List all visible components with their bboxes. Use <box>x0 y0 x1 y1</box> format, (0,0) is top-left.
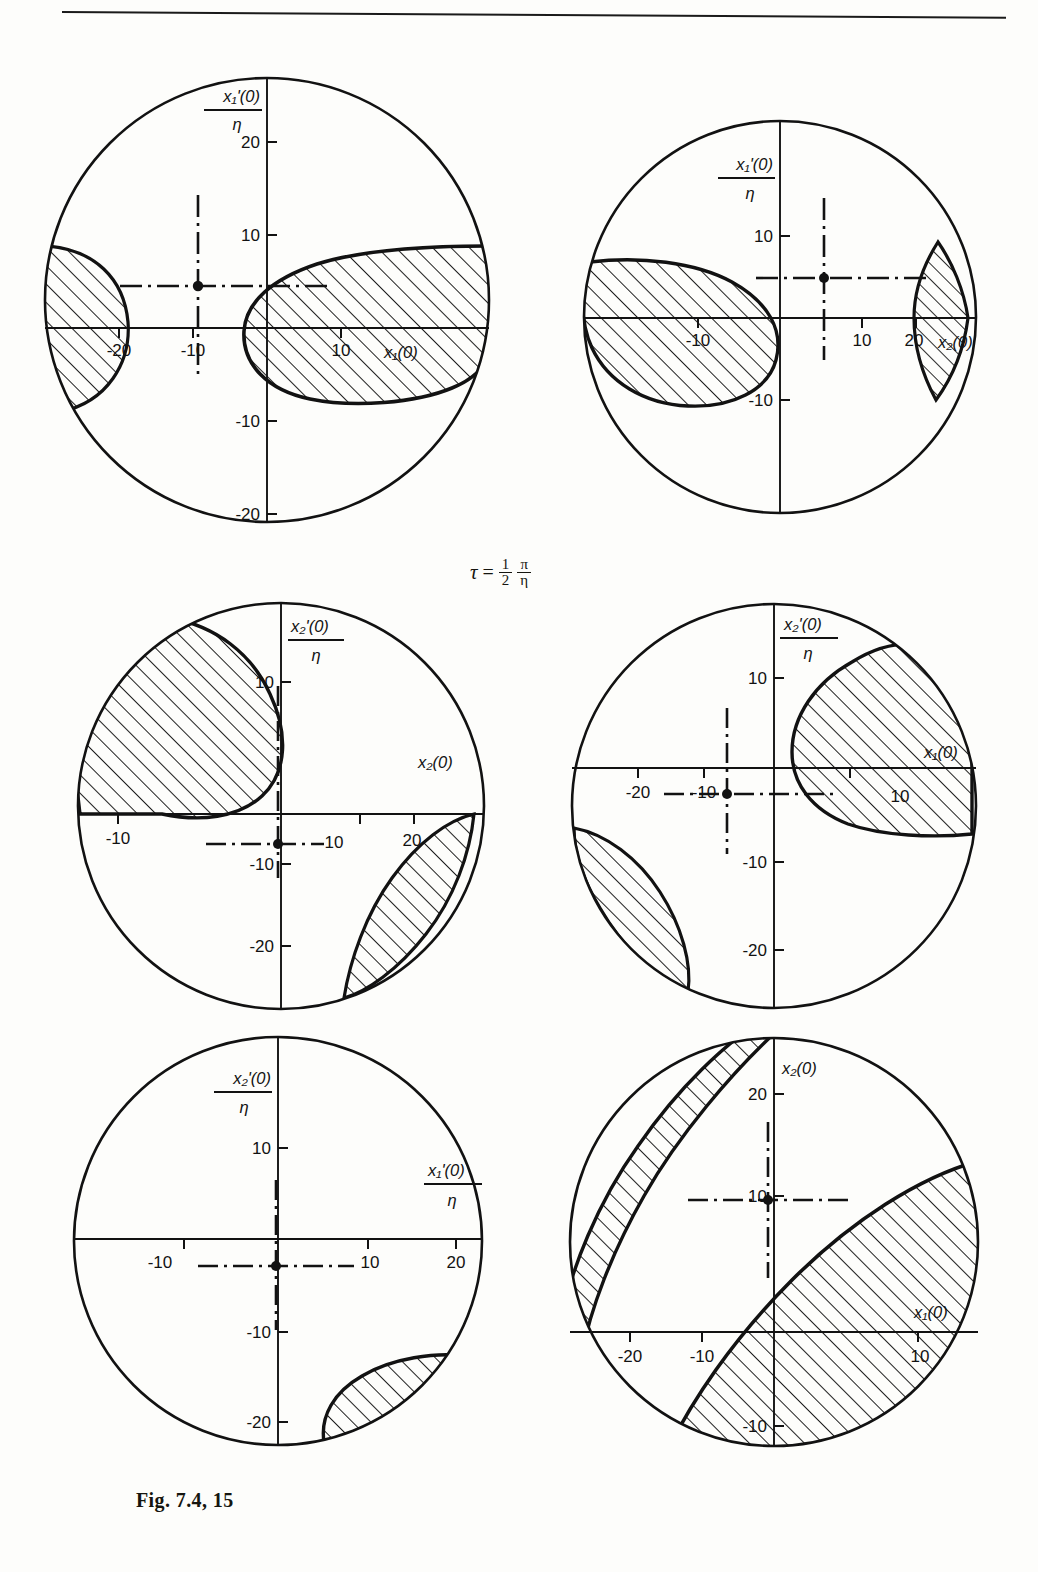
reference-crosshair-bl <box>198 1180 354 1330</box>
region-left-lune-tl <box>40 246 129 412</box>
xtick-n10-mr: -10 <box>692 783 717 802</box>
tau-condition: τ = 1 2 π η <box>470 557 531 589</box>
center-dot-mr <box>722 789 732 799</box>
y-axis-label-num-tl: x₁'(0) <box>222 87 260 105</box>
y-axis-label-den-tl: η <box>232 115 241 133</box>
region-upper-right-lobe-mr <box>792 644 972 836</box>
y-axis-label-num-bl: x₂'(0) <box>232 1069 271 1087</box>
tau-coefficient: 1 2 <box>499 557 513 589</box>
xtick-n20-br: -20 <box>618 1347 643 1366</box>
y-ticks-mr <box>774 678 784 950</box>
panel-bottom-right: 20 10 -10 -20 -10 10 x₂(0) x₁(0) <box>552 1026 1002 1466</box>
panel-bottom-left: 10 -10 -20 -10 10 20 x₂'(0) η x₁'(0) η <box>66 1026 516 1466</box>
region-lower-right-lobe-bl <box>323 1355 477 1466</box>
x-axis-label-den-bl: η <box>447 1191 456 1209</box>
ytick-n10-br: -10 <box>742 1417 767 1436</box>
center-dot-bl <box>271 1261 281 1271</box>
xtick-10-br: 10 <box>911 1347 930 1366</box>
x-axis-label-tl: x₁(0) <box>383 343 418 361</box>
x-ticks-bl <box>184 1239 456 1249</box>
tau-frac-num: π <box>517 557 531 572</box>
xtick-n10-bl: -10 <box>148 1253 173 1272</box>
region-right-wedge-tr <box>914 242 968 400</box>
center-dot-tl <box>193 281 203 291</box>
panel-mid-right: 10 -10 -20 -20 -10 10 x₂'(0) η x₁(0) <box>552 596 1002 1016</box>
x-axis-label-ml: x₂(0) <box>417 753 453 771</box>
xtick-10-ml: 10 <box>325 833 344 852</box>
y-axis-label-den-tr: η <box>745 184 754 202</box>
xtick-20-bl: 20 <box>447 1253 466 1272</box>
tau-equals: = <box>483 561 494 584</box>
xtick-20-tr: 20 <box>905 331 924 350</box>
ytick-n10-bl: -10 <box>246 1323 271 1342</box>
y-axis-label-mr: x₂'(0) η <box>780 615 838 662</box>
y-ticks-bl <box>278 1148 288 1422</box>
xtick-10-tl: 10 <box>332 341 351 360</box>
page-header-rule <box>62 11 1006 19</box>
ytick-20-br: 20 <box>748 1085 767 1104</box>
ytick-n10-ml: -10 <box>249 855 274 874</box>
region-upper-left-band-br <box>560 1018 780 1354</box>
center-dot-ml <box>273 839 283 849</box>
y-axis-label-ml: x₂'(0) η <box>288 617 344 664</box>
reference-crosshair-tr <box>756 198 928 360</box>
ytick-n20-bl: -20 <box>246 1413 271 1432</box>
x-axis-label-mr: x₁(0) <box>923 743 958 761</box>
ytick-n20-tl: -20 <box>235 505 260 524</box>
center-dot-tr <box>819 273 829 283</box>
y-axis-label-num-ml: x₂'(0) <box>290 617 329 635</box>
ytick-10-tr: 10 <box>754 227 773 246</box>
panel-mid-left: 10 -10 -20 -10 10 20 x₂'(0) η x₂(0) <box>66 596 516 1016</box>
panel-top-left: 20 10 -10 -20 -20 -10 10 x₁'(0) η x₁(0) <box>32 50 502 550</box>
xtick-20-ml: 20 <box>403 831 422 850</box>
xtick-10-mr: 10 <box>891 787 910 806</box>
tau-frac-den: η <box>517 572 531 588</box>
tau-coef-den: 2 <box>499 572 513 588</box>
region-right-lobe-tl <box>244 246 496 403</box>
ytick-20-tl: 20 <box>241 133 260 152</box>
ytick-10-ml: 10 <box>255 673 274 692</box>
ytick-n10-mr: -10 <box>742 853 767 872</box>
y-axis-label-den-ml: η <box>311 646 320 664</box>
region-lower-right-band-br <box>664 1160 998 1478</box>
xtick-n10-tr: -10 <box>686 331 711 350</box>
x-axis-label-num-bl: x₁'(0) <box>427 1161 465 1179</box>
ytick-10-mr: 10 <box>748 669 767 688</box>
ytick-n20-mr: -20 <box>742 941 767 960</box>
region-upper-left-lobe-ml <box>77 618 283 818</box>
xtick-n20-mr: -20 <box>626 783 651 802</box>
tau-symbol: τ <box>470 560 478 585</box>
ytick-n10-tr: -10 <box>748 391 773 410</box>
xtick-10-tr: 10 <box>853 331 872 350</box>
x-axis-label-tr: x₂(0) <box>937 333 973 351</box>
xtick-n10-ml: -10 <box>106 829 131 848</box>
y-axis-label-br: x₂(0) <box>781 1059 817 1077</box>
xtick-n10-br: -10 <box>690 1347 715 1366</box>
xtick-10-bl: 10 <box>361 1253 380 1272</box>
region-left-crescent-mr <box>574 828 689 992</box>
ytick-n20-ml: -20 <box>249 937 274 956</box>
y-axis-label-bl: x₂'(0) η <box>214 1069 272 1116</box>
y-axis-label-tr: x₁'(0) η <box>718 155 775 202</box>
xtick-n20-tl: -20 <box>107 341 132 360</box>
y-axis-label-den-bl: η <box>239 1098 248 1116</box>
xtick-n10-tl: -10 <box>181 341 206 360</box>
figure-caption: Fig. 7.4, 15 <box>136 1489 234 1512</box>
ytick-10-tl: 10 <box>241 226 260 245</box>
ytick-n10-tl: -10 <box>235 412 260 431</box>
panel-top-right: 10 -10 -10 10 20 x₁'(0) η x₂(0) <box>560 112 1000 532</box>
y-axis-label-num-tr: x₁'(0) <box>735 155 773 173</box>
region-left-lobe-tr <box>583 260 778 406</box>
x-axis-label-br: x₁(0) <box>913 1303 948 1321</box>
ytick-10-bl: 10 <box>252 1139 271 1158</box>
ytick-10-br: 10 <box>748 1187 767 1206</box>
tau-fraction: π η <box>517 557 531 589</box>
y-axis-label-num-mr: x₂'(0) <box>783 615 822 633</box>
tau-coef-num: 1 <box>499 557 513 572</box>
figure-page: 20 10 -10 -20 -20 -10 10 x₁'(0) η x₁(0) <box>0 0 1038 1572</box>
y-axis-label-tl: x₁'(0) η <box>204 87 262 133</box>
y-axis-label-den-mr: η <box>803 644 812 662</box>
